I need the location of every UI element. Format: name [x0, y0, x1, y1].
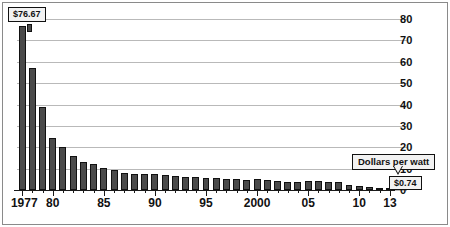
x-axis-tick-label: 13: [383, 196, 396, 210]
x-axis-tick-mark: [114, 190, 115, 193]
x-axis-tick-mark: [380, 190, 381, 193]
x-axis-tick-mark: [216, 190, 217, 193]
x-axis-tick-label: 2000: [244, 196, 271, 210]
x-axis-tick-mark: [165, 190, 166, 193]
x-axis-tick-mark: [369, 190, 370, 193]
x-axis-tick-mark: [73, 190, 74, 193]
bar: [19, 26, 26, 190]
x-axis-tick-mark: [237, 190, 238, 193]
x-axis-tick-label: 10: [353, 196, 366, 210]
bar: [233, 179, 240, 190]
x-axis-tick-mark: [124, 190, 125, 193]
x-axis-tick-mark: [339, 190, 340, 193]
bar: [39, 107, 46, 190]
bar: [29, 68, 36, 190]
bar: [264, 180, 271, 190]
x-axis-tick-mark: [196, 190, 197, 193]
y-axis-tick-label: 80: [400, 13, 413, 25]
plot-area: [17, 19, 395, 190]
bar: [70, 156, 77, 190]
x-axis-tick-mark: [226, 190, 227, 193]
y-axis-tick-label: 70: [400, 34, 413, 46]
x-axis-tick-mark: [318, 190, 319, 193]
bar: [131, 174, 138, 190]
callout-pointer-inner-icon: [394, 166, 402, 173]
x-axis-tick-label: 1977: [11, 196, 38, 210]
x-axis-tick-mark: [134, 190, 135, 193]
bar-series: [17, 19, 395, 190]
x-axis-tick-label: 85: [97, 196, 110, 210]
bar: [254, 179, 261, 190]
x-axis-tick-mark: [94, 190, 95, 193]
x-axis-tick-label: 05: [301, 196, 314, 210]
x-axis-tick-mark: [43, 190, 44, 193]
max-value-callout-stem: [27, 24, 32, 32]
bar: [121, 173, 128, 190]
x-axis-tick-mark: [32, 190, 33, 193]
bar: [192, 177, 199, 190]
y-axis-tick-label: 20: [400, 141, 413, 153]
y-axis-tick-label: 40: [400, 99, 413, 111]
y-axis-tick-label: 50: [400, 77, 413, 89]
x-axis-tick-mark: [186, 190, 187, 193]
x-axis-tick-label: 80: [46, 196, 59, 210]
x-axis-tick-mark: [247, 190, 248, 193]
min-value-callout: $0.74: [389, 176, 422, 190]
x-axis-tick-mark: [175, 190, 176, 193]
x-axis-tick-mark: [278, 190, 279, 193]
bar: [182, 177, 189, 190]
solar-price-bar-chart: 01020304050607080 1977808590952000051013…: [0, 0, 450, 227]
bar: [80, 162, 87, 190]
x-axis-tick-mark: [349, 190, 350, 193]
x-axis-tick-mark: [83, 190, 84, 193]
y-axis-tick-label: 30: [400, 120, 413, 132]
x-axis-tick-mark: [329, 190, 330, 193]
x-axis-tick-mark: [145, 190, 146, 193]
bar: [162, 175, 169, 190]
x-axis: 1977808590952000051013: [17, 190, 395, 200]
bar: [49, 138, 56, 190]
bar: [100, 168, 107, 190]
x-axis-tick-mark: [267, 190, 268, 193]
bar: [151, 174, 158, 190]
y-axis-tick-label: 60: [400, 56, 413, 68]
bar: [90, 164, 97, 190]
x-axis-tick-label: 90: [148, 196, 161, 210]
bar: [203, 178, 210, 190]
max-value-callout: $76.67: [8, 7, 46, 22]
bar: [213, 178, 220, 190]
bar: [111, 170, 118, 190]
bar: [172, 176, 179, 190]
x-axis-tick-mark: [288, 190, 289, 193]
x-axis-tick-mark: [63, 190, 64, 193]
x-axis-tick-label: 95: [199, 196, 212, 210]
bar: [141, 174, 148, 190]
x-axis-tick-mark: [298, 190, 299, 193]
bar: [223, 179, 230, 190]
bar: [59, 147, 66, 190]
